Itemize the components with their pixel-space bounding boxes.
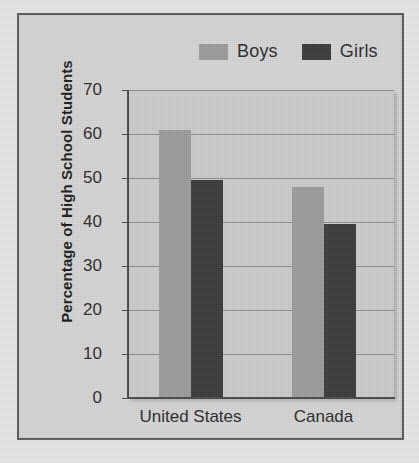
bar-girls-united-states xyxy=(191,180,223,398)
y-axis-tick-label: 0 xyxy=(93,388,102,408)
y-axis-tick-label: 50 xyxy=(83,168,102,188)
y-axis-tick-label: 60 xyxy=(83,124,102,144)
legend-label-boys: Boys xyxy=(237,41,278,62)
y-axis-title: Percentage of High School Students xyxy=(58,37,75,347)
bar-boys-canada xyxy=(292,187,324,398)
chart-legend: Boys Girls xyxy=(199,41,378,62)
y-axis-line xyxy=(127,90,129,399)
y-axis-tick-label: 70 xyxy=(83,80,102,100)
y-axis-tick-mark xyxy=(122,178,128,179)
gridline xyxy=(128,90,394,91)
y-axis-tick-mark xyxy=(122,310,128,311)
y-axis-tick-label: 10 xyxy=(83,344,102,364)
bar-girls-canada xyxy=(324,224,356,398)
y-axis-tick-label: 30 xyxy=(83,256,102,276)
plot-wrap: 010203040506070 United StatesCanada xyxy=(110,77,394,399)
y-axis-tick-mark xyxy=(122,90,128,91)
legend-swatch-girls xyxy=(302,44,331,60)
y-axis-tick-mark xyxy=(122,134,128,135)
legend-swatch-boys xyxy=(199,44,228,60)
y-axis-tick-mark xyxy=(122,222,128,223)
x-axis-line xyxy=(127,397,395,399)
figure-frame: Boys Girls Percentage of High School Stu… xyxy=(17,13,404,440)
bar-boys-united-states xyxy=(159,130,191,398)
y-axis-tick-mark xyxy=(122,398,128,399)
legend-item-girls: Girls xyxy=(302,41,378,62)
y-axis-tick-label: 40 xyxy=(83,212,102,232)
y-axis-tick-mark xyxy=(122,266,128,267)
x-axis-label-canada: Canada xyxy=(294,407,354,427)
y-axis-tick-mark xyxy=(122,354,128,355)
x-axis-label-united-states: United States xyxy=(139,407,241,427)
plot-area xyxy=(128,90,394,398)
y-axis-tick-label: 20 xyxy=(83,300,102,320)
legend-label-girls: Girls xyxy=(340,41,378,62)
legend-item-boys: Boys xyxy=(199,41,278,62)
